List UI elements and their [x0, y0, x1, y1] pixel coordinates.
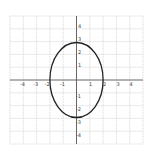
y-tick-label: 1 — [78, 62, 81, 68]
y-tick-label: -1 — [76, 93, 81, 99]
x-tick-label: -1 — [60, 81, 65, 87]
y-tick-label: -2 — [76, 106, 81, 112]
coordinate-plane: -4 -3 -2 -1 1 2 3 4 4 3 2 1 -1 -2 -3 -4 — [0, 0, 150, 150]
y-tick-label: 4 — [78, 23, 81, 29]
x-tick-label: -2 — [45, 81, 50, 87]
x-tick-label: 1 — [89, 81, 92, 87]
x-tick-label: 4 — [130, 81, 133, 87]
y-tick-label: -4 — [76, 132, 81, 138]
y-tick-label: 2 — [78, 49, 81, 55]
y-tick-label: 3 — [78, 36, 81, 42]
x-tick-label: -3 — [33, 81, 38, 87]
x-tick-label: -4 — [20, 81, 25, 87]
x-tick-label: 3 — [117, 81, 120, 87]
y-tick-label: -3 — [76, 119, 81, 125]
